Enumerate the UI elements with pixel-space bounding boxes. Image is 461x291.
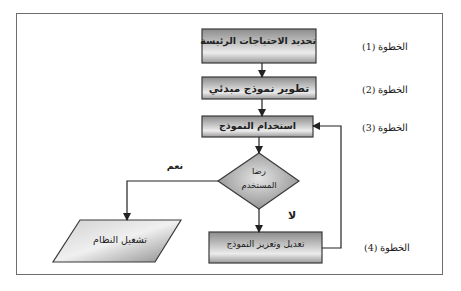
- edge-label-no: لا: [282, 209, 302, 222]
- node-use-prototype-label: استخدام النموذج: [202, 120, 313, 131]
- node-run-system-label: تشغيل النظام: [70, 234, 170, 245]
- step-1-label: الخطوة (1): [362, 41, 409, 52]
- node-modify-prototype-label: تعديل وتعزيز النموذج: [209, 239, 322, 249]
- step-4-label: الخطوة (4): [364, 242, 411, 253]
- node-user-satisfaction-label-line2: المستخدم: [228, 180, 290, 190]
- node-user-satisfaction-label-line1: رضا: [228, 166, 290, 176]
- arrow-yes-to-run-system: [127, 181, 218, 220]
- node-develop-prototype-label: تطوير نموذج مبدئي: [202, 82, 316, 94]
- step-3-label: الخطوة (3): [362, 122, 409, 133]
- step-2-label: الخطوة (2): [362, 84, 409, 95]
- node-identify-needs-label: تحديد الاحتياجات الرئيسة: [202, 35, 316, 46]
- edge-label-yes: نعم: [160, 160, 190, 171]
- arrow-loop-4-to-3: [313, 126, 341, 248]
